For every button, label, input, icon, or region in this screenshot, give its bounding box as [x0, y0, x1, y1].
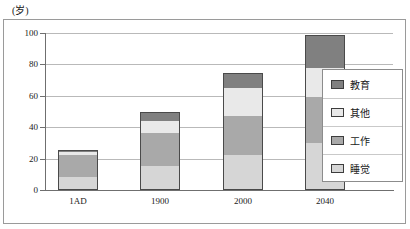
- y-axis-tick-label: 60: [12, 92, 38, 101]
- y-axis-tick-label: 80: [12, 60, 38, 69]
- bar-segment[interactable]: [140, 112, 180, 121]
- legend-item[interactable]: 其他: [323, 98, 402, 126]
- legend-item[interactable]: 工作: [323, 126, 402, 154]
- legend-item-label: 教育: [350, 77, 370, 92]
- y-axis-unit-label: (岁): [12, 2, 29, 17]
- bar-segment[interactable]: [140, 165, 180, 190]
- bar-segment[interactable]: [140, 132, 180, 166]
- legend-swatch-icon: [331, 164, 344, 173]
- y-axis-tick-label: 0: [12, 186, 38, 195]
- x-axis-tick-label: 2040: [290, 196, 360, 206]
- legend-item[interactable]: 睡觉: [323, 154, 402, 182]
- chart-legend: 教育其他工作睡觉: [322, 69, 403, 182]
- legend-swatch-icon: [331, 108, 344, 117]
- legend-swatch-icon: [331, 80, 344, 89]
- legend-swatch-icon: [331, 136, 344, 145]
- x-axis-tick-label: 1900: [125, 196, 195, 206]
- stacked-bar-chart: (岁) 020406080100 1AD190020002040 教育其他工作睡…: [0, 0, 410, 229]
- x-axis-line: [45, 190, 394, 191]
- bar-segment[interactable]: [58, 154, 98, 177]
- legend-item-label: 睡觉: [350, 161, 370, 176]
- y-axis-tick-label: 40: [12, 123, 38, 132]
- bar-segment[interactable]: [223, 73, 263, 88]
- legend-item-label: 工作: [350, 133, 370, 148]
- x-axis-tick-label: 2000: [208, 196, 278, 206]
- bar-segment[interactable]: [223, 154, 263, 190]
- bar-segment[interactable]: [58, 150, 98, 153]
- bar-segment[interactable]: [140, 120, 180, 134]
- bar-segment[interactable]: [223, 115, 263, 155]
- bar-segment[interactable]: [305, 35, 345, 67]
- legend-item[interactable]: 教育: [323, 70, 402, 98]
- x-axis-tick-label: 1AD: [43, 196, 113, 206]
- legend-item-label: 其他: [350, 105, 370, 120]
- y-axis-tick-label: 100: [12, 29, 38, 38]
- bar-column[interactable]: [140, 33, 180, 190]
- bar-segment[interactable]: [223, 87, 263, 116]
- bar-column[interactable]: [58, 33, 98, 190]
- bar-column[interactable]: [223, 33, 263, 190]
- bar-segment[interactable]: [58, 176, 98, 190]
- y-axis-tick-label: 20: [12, 155, 38, 164]
